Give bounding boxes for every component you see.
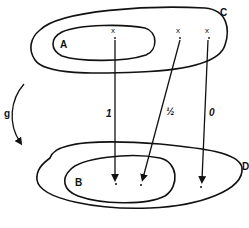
map-g-arrow [12,84,24,142]
arrow-0 [202,40,208,180]
label-set-a: A [60,39,67,50]
point-x-1: x [111,27,115,35]
source-dot-3 [208,37,210,39]
source-dot-1 [114,37,116,39]
image-point-1 [115,183,117,185]
image-point-2 [140,184,142,186]
image-point-3 [200,186,202,188]
point-x-3: x [205,27,209,35]
arrow-label-half: ½ [166,106,174,117]
label-set-c: C [220,7,227,18]
label-set-b: B [75,177,82,188]
label-map-g: g [4,108,10,119]
point-x-2: x [176,27,180,35]
source-dot-2 [179,37,181,39]
arrow-half [143,40,180,178]
label-set-d: D [242,161,249,172]
set-a-outline [53,25,155,60]
arrow-label-1: 1 [106,108,112,119]
set-d-outline [37,142,242,208]
arrow-label-0: 0 [209,107,215,118]
